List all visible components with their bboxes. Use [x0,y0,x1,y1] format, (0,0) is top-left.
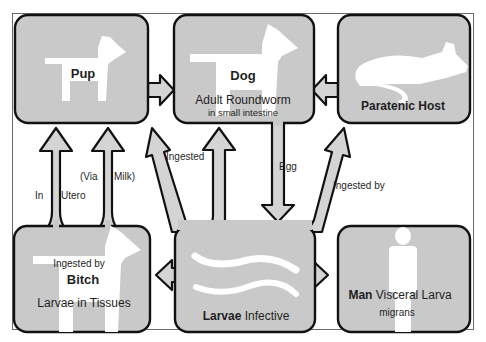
arrow-larvae-to-pup-and-dog-and-paratenic [146,128,350,232]
edge-label-milk: Milk) [114,171,135,182]
edge-label-egg: Egg [279,161,297,172]
node-dog-title: Dog [230,68,255,83]
node-larvae-title-bold: Larvae [203,309,242,323]
edge-label-ingested: Ingested [166,151,204,162]
node-bitch-subtitle: Larvae in Tissues [37,296,130,310]
edge-label-in: In [35,190,43,201]
edge-label-ingested-by: Ingested by [333,180,385,191]
node-larvae-title-rest: Infective [245,309,290,323]
node-dog-subtitle: Adult Roundworm [195,93,290,107]
node-bitch-title: Bitch [67,272,100,287]
node-larvae-title: Larvae Infective [203,309,290,323]
arrow-paratenic-to-dog [312,75,338,105]
node-man-title-rest: Visceral Larva [376,288,452,302]
node-man-title: Man Visceral Larva [348,288,451,302]
node-dog-detail: in small intestine [208,107,278,118]
node-man-detail: migrans [379,307,415,318]
node-bitch-pretitle: Ingested by [53,258,105,269]
node-man-title-bold: Man [348,288,372,302]
life-cycle-diagram: Pup Dog Adult Roundworm in small intesti… [0,0,486,342]
node-paratenic-title: Paratenic Host [361,99,445,113]
arrow-pup-to-dog [148,75,174,105]
edge-label-via: (Via [80,171,98,182]
node-pup-title: Pup [71,66,96,81]
arrow-in-utero [40,128,72,230]
edge-label-utero: Utero [61,190,85,201]
